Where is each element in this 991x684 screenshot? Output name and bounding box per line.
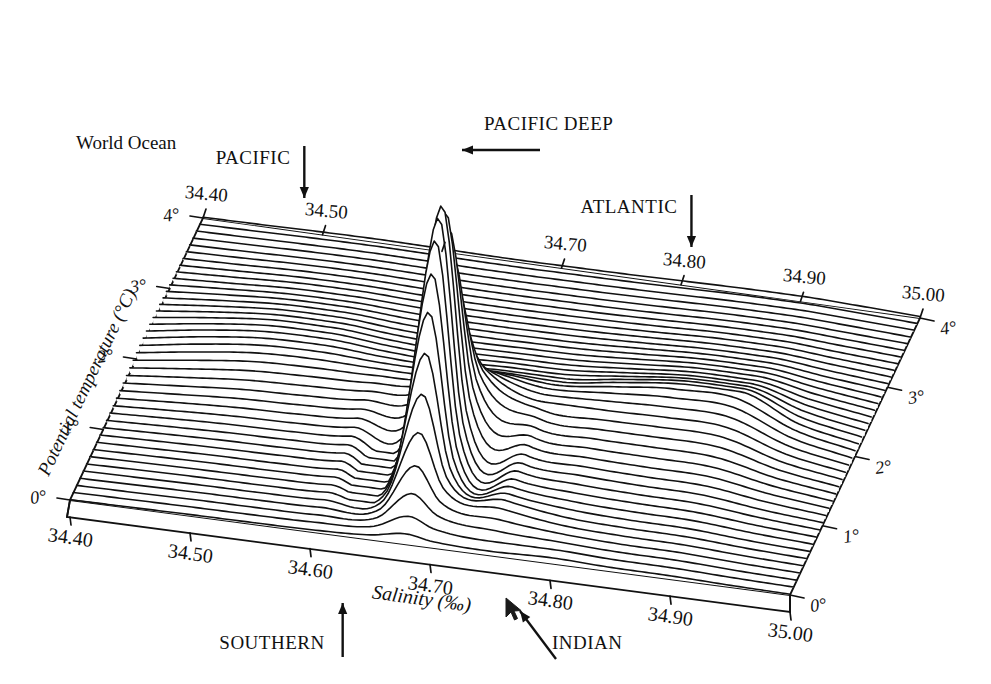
salinity-top-tick-34.70: 34.70 [543,232,587,255]
salinity-top-tick-34.90: 34.90 [782,266,826,289]
salinity-top-tick-34.50: 34.50 [304,199,348,222]
salinity-top-tick-34.40: 34.40 [184,182,228,205]
salinity-bottom-tick-34.50: 34.50 [167,540,214,566]
temperature-right-tick-1: 3° [906,387,925,407]
temperature-right-tick-3: 1° [841,526,860,546]
waterfall-plot [0,0,991,684]
temperature-left-tick-3: 1° [62,416,81,436]
temperature-right-tick-2: 2° [874,456,893,476]
temperature-right-tick-4: 0° [809,595,828,615]
annotation-southern: SOUTHERN [219,633,324,652]
salinity-top-tick-34.80: 34.80 [662,249,706,272]
temperature-left-tick-1: 3° [129,275,148,295]
salinity-bottom-tick-34.60: 34.60 [287,556,334,582]
annotation-pacific: PACIFIC [216,148,291,167]
figure-canvas: World Ocean Potential temperature (°C) S… [0,0,991,684]
salinity-top-tick-35.00: 35.00 [901,282,945,305]
annotation-pacific-deep: PACIFIC DEEP [484,114,613,133]
temperature-left-tick-2: 2° [95,346,114,366]
temperature-left-tick-4: 0° [29,487,48,507]
temperature-left-tick-0: 4° [162,205,181,225]
salinity-bottom-tick-34.70: 34.70 [407,572,454,598]
annotation-atlantic: ATLANTIC [581,197,678,216]
annotation-indian: INDIAN [552,633,623,652]
mouse-cursor-icon [505,597,523,623]
temperature-right-tick-0: 4° [939,318,958,338]
page-title: World Ocean [76,133,176,152]
